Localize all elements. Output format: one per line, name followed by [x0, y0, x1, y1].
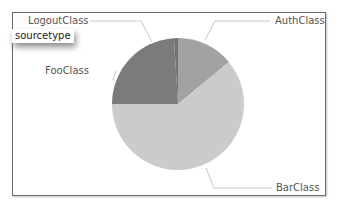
- slice-label-logout[interactable]: LogoutClass: [28, 15, 89, 27]
- tooltip: sourcetype: [12, 29, 74, 43]
- pie-slice-fooclass[interactable]: [112, 38, 178, 104]
- pie-slices: [112, 38, 244, 170]
- slice-label-foo[interactable]: FooClass: [45, 65, 89, 77]
- leader-line-logout: [90, 21, 152, 42]
- leader-line-foo: [113, 71, 116, 80]
- slice-label-bar[interactable]: BarClass: [276, 182, 319, 194]
- leader-line-auth: [205, 21, 270, 40]
- slice-label-auth[interactable]: AuthClass: [275, 15, 325, 27]
- leader-line-bar: [206, 168, 272, 188]
